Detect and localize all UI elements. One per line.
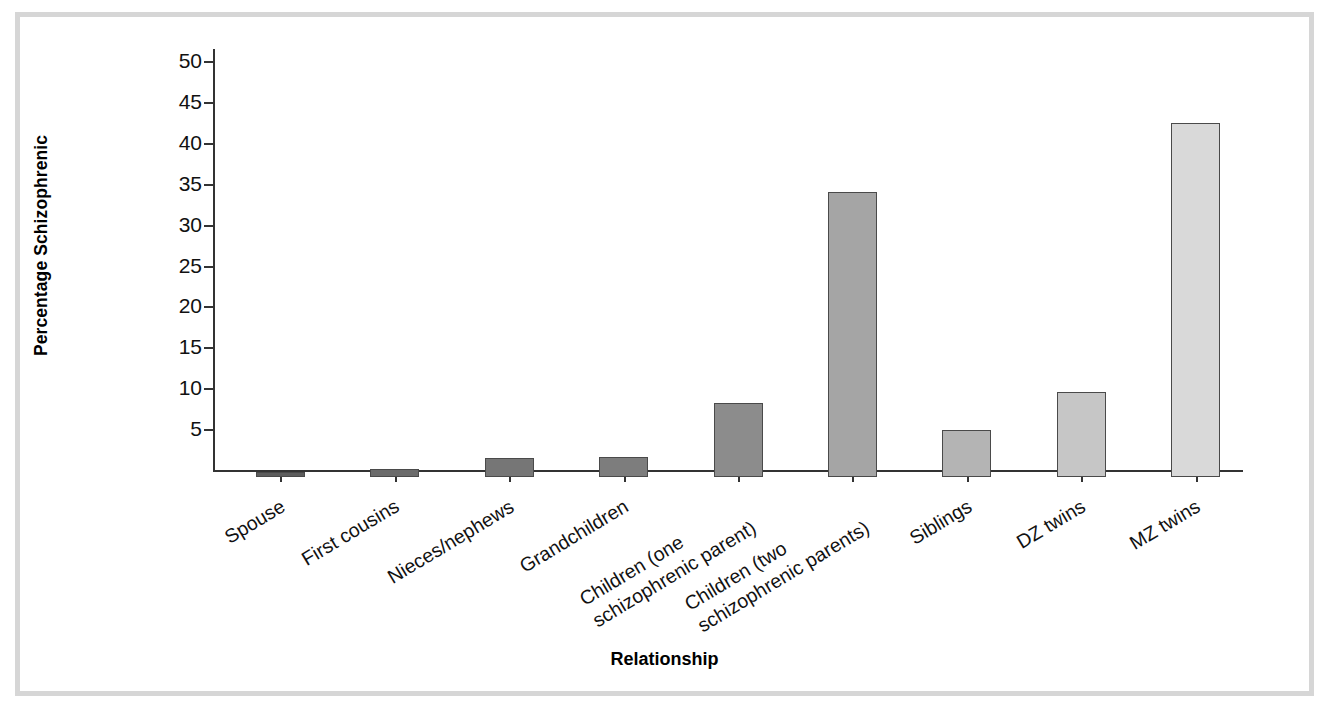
- y-axis-title: Percentage Schizophrenic: [31, 86, 52, 406]
- y-axis-tick: [204, 347, 213, 349]
- y-axis-tick-label: 50: [142, 50, 202, 71]
- x-axis-category-label: First cousins: [297, 494, 404, 572]
- category-label-line: Grandchildren: [515, 495, 631, 577]
- category-label-line: Siblings: [905, 495, 975, 549]
- y-axis-tick-label: 10: [142, 377, 202, 398]
- bar: [256, 472, 305, 477]
- bar: [942, 430, 991, 477]
- y-axis-tick: [204, 143, 213, 145]
- x-axis-title: Relationship: [20, 649, 1309, 670]
- bar: [1171, 123, 1220, 477]
- x-axis-category-label: DZ twins: [1012, 494, 1090, 554]
- bar: [1057, 392, 1106, 477]
- bar: [599, 457, 648, 477]
- plot-stage: Percentage Schizophrenic Relationship 51…: [20, 17, 1309, 691]
- y-axis-tick: [204, 102, 213, 104]
- category-label-line: DZ twins: [1013, 495, 1089, 553]
- y-axis-tick: [204, 306, 213, 308]
- x-axis-category-label: Siblings: [905, 494, 976, 551]
- bar: [370, 469, 419, 477]
- category-label-line: First cousins: [298, 495, 403, 570]
- bar: [714, 403, 763, 477]
- x-axis-category-label: Nieces/nephews: [383, 494, 519, 589]
- bar: [828, 192, 877, 477]
- y-axis-tick-label: 15: [142, 336, 202, 357]
- y-axis-tick-label: 5: [142, 418, 202, 439]
- category-label-line: Spouse: [220, 495, 288, 548]
- x-axis-category-label: MZ twins: [1125, 494, 1205, 556]
- y-axis-tick: [204, 266, 213, 268]
- y-axis-tick: [204, 429, 213, 431]
- category-label-line: MZ twins: [1125, 495, 1203, 554]
- category-label-line: Nieces/nephews: [383, 495, 517, 588]
- y-axis-tick-label: 30: [142, 214, 202, 235]
- y-axis-tick-label: 40: [142, 132, 202, 153]
- y-axis-tick: [204, 225, 213, 227]
- x-axis-category-label: Spouse: [220, 494, 290, 549]
- y-axis-tick-label: 45: [142, 91, 202, 112]
- y-axis-tick-label: 20: [142, 295, 202, 316]
- axes-area: 5101520253035404550 SpouseFirst cousinsN…: [213, 49, 1243, 479]
- y-axis-tick: [204, 61, 213, 63]
- bar: [485, 458, 534, 477]
- figure-frame: Percentage Schizophrenic Relationship 51…: [15, 12, 1314, 696]
- y-axis-tick-label: 25: [142, 255, 202, 276]
- y-axis-tick: [204, 184, 213, 186]
- y-axis-tick: [204, 388, 213, 390]
- y-axis-line: [213, 49, 215, 472]
- y-axis-tick-label: 35: [142, 173, 202, 194]
